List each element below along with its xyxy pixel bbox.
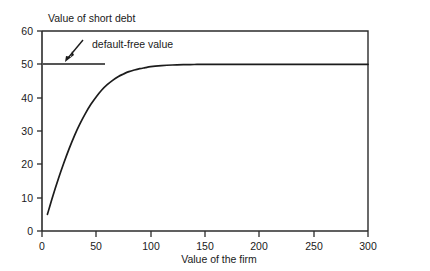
chart-title: Value of short debt <box>48 12 135 24</box>
chart-canvas: 60 50 40 30 20 10 0 0 50 100 150 200 250 <box>0 0 430 271</box>
annotation-label-default-free-value: default-free value <box>92 38 173 50</box>
x-axis-title: Value of the firm <box>181 253 257 265</box>
x-tick-label: 150 <box>196 240 214 252</box>
x-tick-label: 300 <box>359 240 377 252</box>
x-tick-label: 100 <box>142 240 160 252</box>
annotation-arrow <box>65 40 83 62</box>
y-tick-label: 40 <box>21 92 33 104</box>
y-axis-tick-labels: 60 50 40 30 20 10 0 <box>21 25 33 237</box>
y-tick-label: 50 <box>21 58 33 70</box>
y-tick-label: 10 <box>21 192 33 204</box>
y-tick-label: 60 <box>21 25 33 37</box>
x-tick-label: 50 <box>90 240 102 252</box>
x-tick-label: 200 <box>250 240 268 252</box>
x-axis-ticks <box>42 231 368 237</box>
x-axis-tick-labels: 0 50 100 150 200 250 300 <box>39 240 377 252</box>
y-tick-label: 30 <box>21 125 33 137</box>
x-tick-label: 250 <box>305 240 323 252</box>
y-tick-label: 0 <box>27 225 33 237</box>
debt-value-curve <box>47 64 368 214</box>
chart-figure: 60 50 40 30 20 10 0 0 50 100 150 200 250 <box>0 0 430 271</box>
plot-frame <box>42 31 368 231</box>
x-tick-label: 0 <box>39 240 45 252</box>
y-tick-label: 20 <box>21 158 33 170</box>
